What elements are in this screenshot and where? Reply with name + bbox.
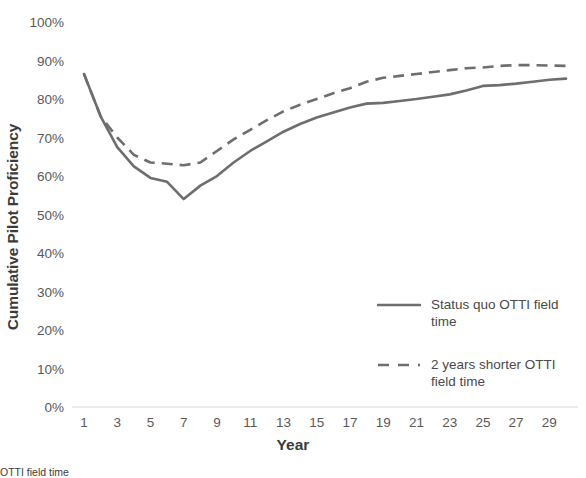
figure-caption: OTTI field time (0, 466, 586, 478)
x-axis-tick-label: 11 (235, 415, 265, 430)
legend-label-two-years-shorter: 2 years shorter OTTI field time (431, 356, 571, 390)
x-axis-tick-label: 27 (501, 415, 531, 430)
legend-entry-two-years-shorter: 2 years shorter OTTI field time (377, 356, 577, 390)
x-axis-tick-label: 29 (534, 415, 564, 430)
x-axis-tick-label: 19 (368, 415, 398, 430)
x-axis-tick-label: 21 (401, 415, 431, 430)
series-line-status-quo (84, 74, 566, 199)
x-axis-tick-label: 1 (69, 415, 99, 430)
x-axis-tick-label: 15 (302, 415, 332, 430)
x-axis-title: Year (0, 436, 586, 454)
x-axis-tick-label: 25 (468, 415, 498, 430)
legend-entry-status-quo: Status quo OTTI field time (377, 296, 577, 330)
x-axis-tick-label: 3 (102, 415, 132, 430)
legend-swatch-dashed-icon (377, 356, 421, 374)
legend-label-status-quo: Status quo OTTI field time (431, 296, 571, 330)
x-axis-tick-labels: 1357911131517192123252729 (0, 415, 586, 437)
data-series-group (84, 65, 566, 199)
x-axis-tick-label: 5 (135, 415, 165, 430)
x-axis-tick-label: 13 (268, 415, 298, 430)
x-axis-tick-label: 17 (335, 415, 365, 430)
x-axis-tick-label: 9 (202, 415, 232, 430)
chart-legend: Status quo OTTI field time 2 years short… (377, 296, 577, 416)
x-axis-tick-label: 23 (435, 415, 465, 430)
x-axis-tick-label: 7 (169, 415, 199, 430)
legend-swatch-solid-icon (377, 296, 421, 314)
